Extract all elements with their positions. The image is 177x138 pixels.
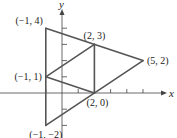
coordinate-plane: x y (−1, 4)(2, 3)(5, 2)(−1, 1)(2, 0)(−1,… — [0, 0, 177, 138]
segment-DB — [46, 44, 95, 76]
vertex-label-D: (−1, 1) — [14, 71, 41, 83]
vertex-label-E: (2, 0) — [87, 97, 109, 109]
vertex-labels: (−1, 4)(2, 3)(5, 2)(−1, 1)(2, 0)(−1, −2) — [14, 15, 168, 138]
vertex-label-B: (2, 3) — [84, 30, 106, 42]
x-axis-arrow-icon — [161, 91, 167, 96]
vertex-label-A: (−1, 4) — [15, 15, 42, 27]
x-axis-label: x — [168, 87, 174, 99]
y-axis-label: y — [58, 0, 64, 10]
vertex-label-C: (5, 2) — [147, 55, 169, 67]
triangle-edges — [46, 28, 143, 125]
segment-ED — [46, 77, 95, 93]
vertex-label-F: (−1, −2) — [29, 129, 62, 138]
